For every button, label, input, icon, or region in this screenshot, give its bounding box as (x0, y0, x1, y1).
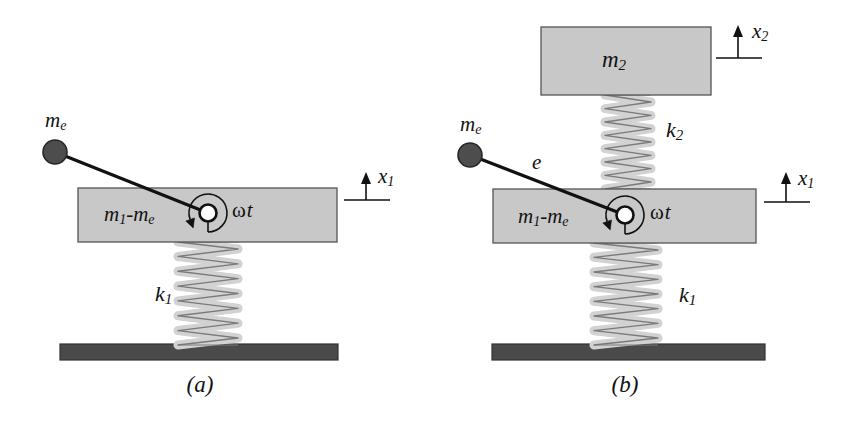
figure-root: k1m1-meωtmex1(a) k2k1m2m1-meeωtmex2x1(b) (0, 0, 849, 427)
eccentric-mass-ball (458, 143, 482, 167)
panel-caption: (a) (187, 372, 214, 397)
rotor-hub-center (621, 211, 629, 219)
eccentric-mass-ball (43, 140, 67, 164)
vibration-diagram-svg: k1m1-meωtmex1(a) k2k1m2m1-meeωtmex2x1(b) (0, 0, 849, 427)
panel-caption: (b) (612, 372, 639, 397)
angular-position-label: ωt (232, 198, 254, 222)
main-mass-label: m1-me (104, 202, 155, 227)
ground-bar (492, 344, 765, 360)
angular-position-label: ωt (650, 200, 672, 224)
main-mass-label: m1-me (518, 204, 569, 229)
rotor-hub-center (204, 209, 212, 217)
arm-length-label: e (532, 150, 541, 174)
